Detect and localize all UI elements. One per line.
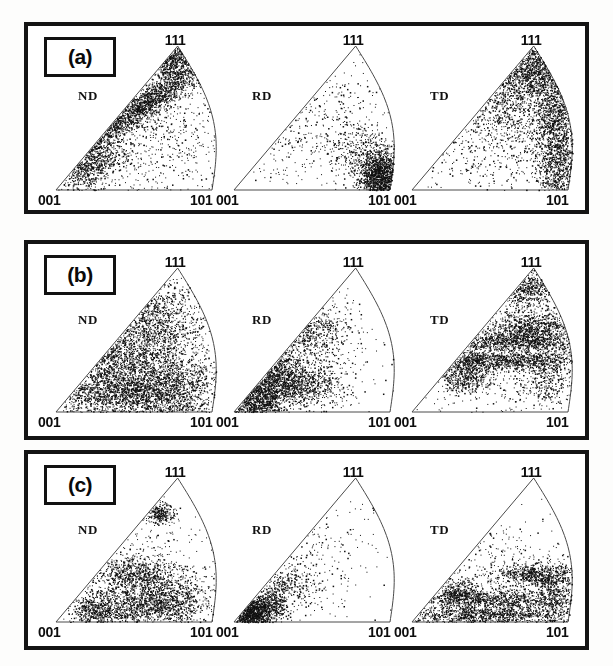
ipf-plot-rd: 111001101RD	[224, 36, 396, 206]
ipf-plot-rd: 111001101RD	[224, 258, 396, 428]
corner-label-101: 101	[546, 192, 568, 208]
corner-label-101: 101	[190, 624, 212, 640]
ipf-plot-nd: 111001101ND	[46, 258, 218, 428]
ipf-scatter-canvas	[46, 468, 218, 638]
corner-label-111: 111	[521, 32, 542, 48]
ipf-scatter-canvas	[224, 258, 396, 428]
ipf-row-c: (c)111001101ND111001101RD111001101TD	[24, 450, 589, 650]
ipf-row-a: (a)111001101ND111001101RD111001101TD	[24, 22, 589, 214]
ipf-plot-td: 111001101TD	[402, 258, 574, 428]
direction-label-rd: RD	[252, 312, 272, 328]
direction-label-nd: ND	[78, 522, 98, 538]
inverse-pole-figure-grid: (a)111001101ND111001101RD111001101TD(b)1…	[0, 0, 613, 666]
corner-label-111: 111	[343, 254, 364, 270]
corner-label-111: 111	[165, 254, 186, 270]
corner-label-111: 111	[521, 254, 542, 270]
ipf-plot-rd: 111001101RD	[224, 468, 396, 638]
ipf-scatter-canvas	[46, 36, 218, 206]
direction-label-nd: ND	[78, 88, 98, 104]
corner-label-111: 111	[521, 464, 542, 480]
corner-label-101: 101	[368, 624, 390, 640]
direction-label-rd: RD	[252, 522, 272, 538]
corner-label-111: 111	[343, 464, 364, 480]
corner-label-101: 101	[368, 414, 390, 430]
corner-label-001: 001	[216, 624, 238, 640]
corner-label-001: 001	[38, 414, 60, 430]
ipf-plot-td: 111001101TD	[402, 468, 574, 638]
ipf-plot-nd: 111001101ND	[46, 36, 218, 206]
ipf-row-inner: (c)111001101ND111001101RD111001101TD	[28, 454, 585, 646]
corner-label-111: 111	[165, 464, 186, 480]
corner-label-001: 001	[216, 192, 238, 208]
corner-label-001: 001	[394, 192, 416, 208]
corner-label-101: 101	[546, 624, 568, 640]
corner-label-001: 001	[394, 624, 416, 640]
ipf-scatter-canvas	[402, 36, 574, 206]
direction-label-td: TD	[430, 312, 449, 328]
ipf-row-inner: (b)111001101ND111001101RD111001101TD	[28, 244, 585, 436]
ipf-scatter-canvas	[224, 468, 396, 638]
corner-label-101: 101	[190, 192, 212, 208]
corner-label-001: 001	[38, 624, 60, 640]
ipf-scatter-canvas	[46, 258, 218, 428]
ipf-scatter-canvas	[402, 258, 574, 428]
corner-label-001: 001	[38, 192, 60, 208]
ipf-plot-td: 111001101TD	[402, 36, 574, 206]
corner-label-001: 001	[394, 414, 416, 430]
direction-label-td: TD	[430, 88, 449, 104]
direction-label-nd: ND	[78, 312, 98, 328]
ipf-row-inner: (a)111001101ND111001101RD111001101TD	[28, 26, 585, 210]
ipf-scatter-canvas	[402, 468, 574, 638]
direction-label-rd: RD	[252, 88, 272, 104]
corner-label-101: 101	[190, 414, 212, 430]
corner-label-111: 111	[343, 32, 364, 48]
ipf-scatter-canvas	[224, 36, 396, 206]
corner-label-001: 001	[216, 414, 238, 430]
corner-label-111: 111	[165, 32, 186, 48]
corner-label-101: 101	[368, 192, 390, 208]
corner-label-101: 101	[546, 414, 568, 430]
ipf-row-b: (b)111001101ND111001101RD111001101TD	[24, 240, 589, 440]
direction-label-td: TD	[430, 522, 449, 538]
ipf-plot-nd: 111001101ND	[46, 468, 218, 638]
